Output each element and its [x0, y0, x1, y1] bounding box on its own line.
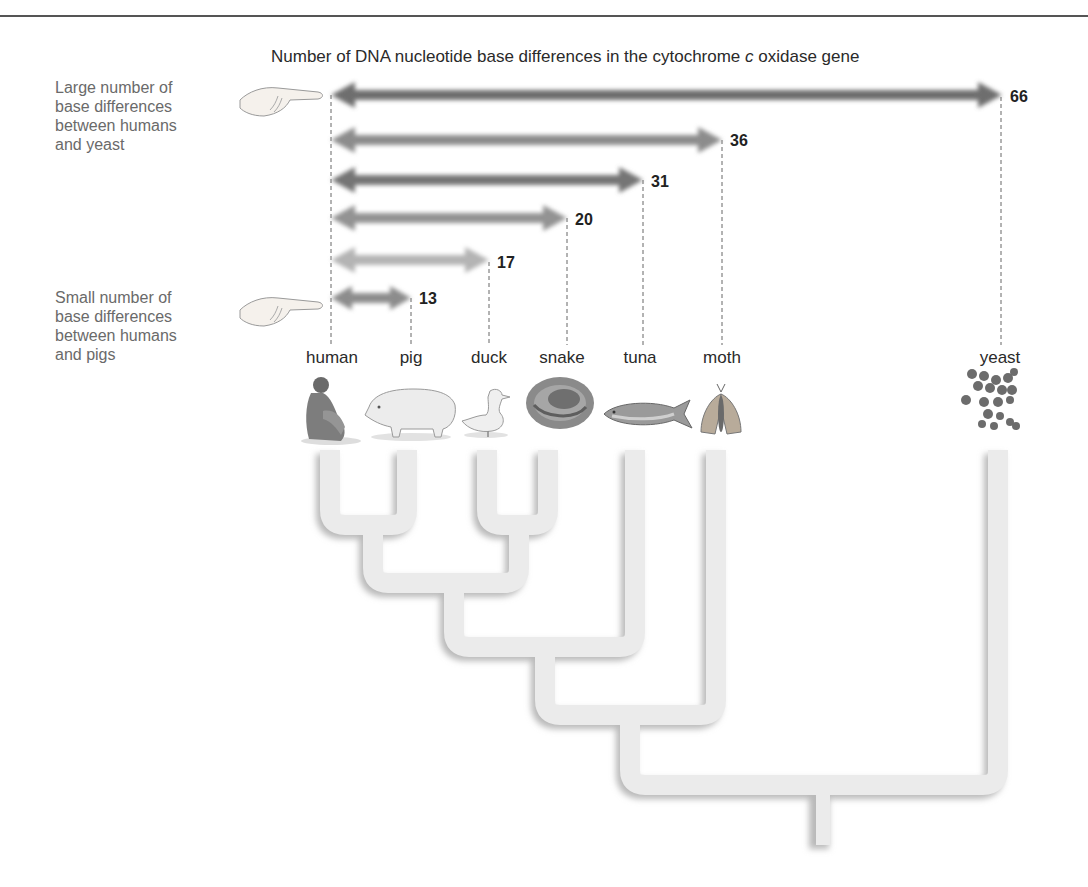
pointing-hand-icon — [240, 88, 323, 116]
tuna-icon — [604, 400, 692, 428]
arrow-human-yeast — [331, 82, 1002, 108]
arrow-human-pig — [331, 286, 411, 310]
duck-icon — [462, 389, 510, 438]
pig-icon — [365, 389, 455, 441]
human-icon — [301, 377, 361, 445]
branch-yeast — [630, 450, 998, 785]
arrow-human-snake — [331, 205, 567, 231]
value-yeast: 66 — [1010, 88, 1028, 106]
diagram-canvas — [0, 0, 1088, 887]
phylogenetic-tree — [330, 450, 998, 845]
arrow-human-moth — [331, 127, 722, 153]
value-snake: 20 — [575, 211, 593, 229]
taxon-label-pig: pig — [400, 348, 423, 368]
yeast-icon — [961, 368, 1020, 430]
value-pig: 13 — [419, 290, 437, 308]
arrow-human-duck — [331, 247, 489, 273]
value-moth: 36 — [730, 132, 748, 150]
pointing-hand-icon — [240, 298, 323, 326]
arrow-human-tuna — [331, 167, 643, 193]
taxon-label-duck: duck — [471, 348, 507, 368]
snake-icon — [526, 377, 594, 429]
branch-duck-snake — [487, 450, 548, 525]
taxon-label-tuna: tuna — [623, 348, 656, 368]
taxon-label-human: human — [306, 348, 358, 368]
value-tuna: 31 — [651, 173, 669, 191]
moth-icon — [701, 384, 741, 434]
taxon-label-snake: snake — [539, 348, 584, 368]
taxon-label-moth: moth — [703, 348, 741, 368]
taxon-label-yeast: yeast — [980, 348, 1021, 368]
value-duck: 17 — [497, 254, 515, 272]
